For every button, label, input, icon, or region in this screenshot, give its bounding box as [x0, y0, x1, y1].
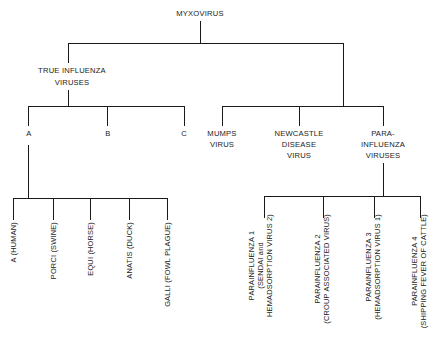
node-myxovirus: MYXOVIRUS: [176, 8, 223, 20]
node-parainfluenza-2: PARAINFLUENZA 2 (CROUP ASSOCIATED VIRUS): [313, 214, 331, 324]
label-line: INFLUENZA: [361, 139, 405, 150]
label-line: PARAINFLUENZA 3: [364, 214, 373, 320]
label-line: HEMADSORPTION VIRUS 2): [265, 214, 274, 317]
label-line: PARA-: [361, 128, 405, 139]
connector-true-influenza: [68, 43, 69, 63]
node-mumps-virus: MUMPS VIRUS: [207, 128, 236, 150]
label-line: PARAINFLUENZA 4: [410, 214, 419, 328]
label-line: TRUE INFLUENZA: [38, 65, 106, 77]
connector-a-down: [28, 145, 29, 198]
label-line: (SENDAI and: [256, 214, 265, 317]
connector-right-bar: [222, 106, 384, 107]
node-a-human: A (HUMAN): [9, 222, 18, 262]
connector-galli: [167, 198, 168, 220]
label-line: A (HUMAN): [9, 222, 18, 262]
node-parainfluenza-4: PARAINFLUENZA 4 (SHIPPING FEVER OF CATTL…: [410, 214, 428, 328]
node-porci-swine: PORCI (SWINE): [49, 222, 58, 279]
connector-a: [28, 106, 29, 126]
connector-root-bar: [68, 43, 344, 44]
label-line: ANATIS (DUCK): [125, 222, 134, 279]
label-line: VIRUSES: [38, 77, 106, 89]
node-galli-fowl-plague: GALLI (FOWL PLAGUE): [163, 222, 172, 307]
connector-para-down: [383, 163, 384, 196]
connector-c: [184, 106, 185, 126]
label-line: PARAINFLUENZA 2: [313, 214, 322, 324]
label-line: VIRUS: [274, 150, 323, 161]
label-line: VIRUS: [207, 139, 236, 150]
node-parainfluenza-3: PARAINFLUENZA 3 (HEMADSORPTION VIRUS 1): [364, 214, 382, 320]
label-line: GALLI (FOWL PLAGUE): [163, 222, 172, 307]
connector-true-influenza-down: [68, 90, 69, 106]
connector-equi: [90, 198, 91, 220]
label-line: (HEMADSORPTION VIRUS 1): [373, 214, 382, 320]
node-type-c: C: [181, 128, 187, 140]
label-line: (CROUP ASSOCIATED VIRUS): [322, 214, 331, 324]
label-line: NEWCASTLE: [274, 128, 323, 139]
connector-mumps: [222, 106, 223, 126]
connector-anatis: [129, 198, 130, 220]
node-equi-horse: EQUI (HORSE): [86, 222, 95, 276]
node-newcastle-disease-virus: NEWCASTLE DISEASE VIRUS: [274, 128, 323, 161]
label-line: MUMPS: [207, 128, 236, 139]
node-true-influenza-viruses: TRUE INFLUENZA VIRUSES: [38, 65, 106, 89]
label-line: PARAINFLUENZA 1: [247, 214, 256, 317]
label-line: EQUI (HORSE): [86, 222, 95, 276]
connector-right-branch: [343, 43, 344, 106]
node-parainfluenza-viruses: PARA- INFLUENZA VIRUSES: [361, 128, 405, 161]
connector-para-subtypes-bar: [264, 196, 421, 197]
label-line: DISEASE: [274, 139, 323, 150]
node-type-a: A: [26, 128, 31, 140]
connector-b: [107, 106, 108, 126]
node-type-b: B: [105, 128, 110, 140]
node-anatis-duck: ANATIS (DUCK): [125, 222, 134, 279]
connector-para: [383, 106, 384, 126]
node-parainfluenza-1: PARAINFLUENZA 1 (SENDAI and HEMADSORPTIO…: [247, 214, 274, 317]
connector-newcastle: [299, 106, 300, 126]
connector-root: [200, 21, 201, 43]
myxovirus-classification-tree: MYXOVIRUS TRUE INFLUENZA VIRUSES A B C A…: [0, 0, 442, 352]
connector-a-human: [13, 198, 14, 220]
connector-porci: [53, 198, 54, 220]
label-line: (SHIPPING FEVER OF CATTLE): [419, 214, 428, 328]
label-line: PORCI (SWINE): [49, 222, 58, 279]
label-line: VIRUSES: [361, 150, 405, 161]
